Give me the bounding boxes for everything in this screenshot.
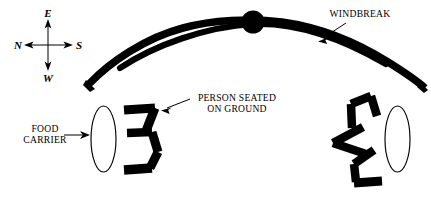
person-seated-arrowhead-icon bbox=[161, 107, 172, 114]
person-left-stroke-bottom bbox=[124, 168, 152, 170]
person-seated-label-line1: PERSON SEATED bbox=[198, 92, 276, 103]
compass-label-north: N bbox=[13, 39, 23, 51]
compass-label-east: E bbox=[43, 7, 51, 19]
food-carrier-right bbox=[385, 106, 410, 172]
figure-canvas: E N S W WINDBREAK bbox=[0, 0, 431, 202]
compass-label-south: S bbox=[76, 39, 82, 51]
person-seated-right-middle bbox=[333, 127, 366, 154]
person-seated-leader-line bbox=[167, 99, 190, 108]
windbreak-diagram: E N S W WINDBREAK bbox=[0, 0, 431, 202]
person-seated-label-group: PERSON SEATED ON GROUND bbox=[161, 92, 276, 114]
food-carrier-left bbox=[91, 106, 116, 172]
person-left-stroke-middle bbox=[127, 132, 152, 133]
person-right-lower-stroke-bottom bbox=[354, 181, 382, 183]
person-right-middle-stroke-lower bbox=[333, 143, 366, 154]
person-right-upper-stroke-tail bbox=[371, 96, 377, 116]
compass-label-west: W bbox=[43, 72, 54, 84]
center-post-dot bbox=[242, 11, 265, 34]
person-seated-left bbox=[124, 108, 158, 170]
food-carrier-label-line2: CARRIER bbox=[23, 134, 67, 145]
food-carrier-label-line1: FOOD bbox=[31, 123, 58, 134]
person-seated-label-line2: ON GROUND bbox=[207, 103, 267, 114]
compass-rose: E N S W bbox=[13, 7, 82, 84]
food-carrier-label-group: FOOD CARRIER bbox=[23, 123, 90, 145]
windbreak-label: WINDBREAK bbox=[330, 8, 391, 19]
person-right-upper-stroke-vertical bbox=[351, 104, 352, 128]
person-seated-right-upper bbox=[351, 96, 377, 128]
person-left-stroke-lower-diagonal bbox=[152, 132, 158, 152]
